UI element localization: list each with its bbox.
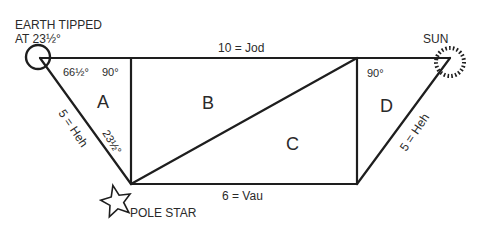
region-d-label: D [380, 96, 393, 116]
region-a-label: A [97, 92, 109, 112]
region-c-label: C [286, 134, 299, 154]
angle-top-left-label: 90° [102, 66, 119, 78]
right-slant-label: 5 = Heh [397, 111, 432, 154]
pole-star-icon [98, 182, 134, 218]
earth-label-line2: AT 23½° [15, 32, 61, 46]
earth-label-line1: EARTH TIPPED [15, 18, 102, 32]
bottom-edge-label: 6 = Vau [222, 189, 263, 203]
region-b-label: B [202, 93, 214, 113]
angle-top-right-label: 90° [367, 67, 384, 79]
angle-earth-label: 66½° [63, 66, 89, 78]
top-edge-label: 10 = Jod [218, 41, 264, 55]
angle-pole-label: 23½° [100, 128, 124, 156]
diagonal-line [131, 58, 357, 184]
left-slant-label: 5 = Heh [56, 107, 91, 150]
tetragrammaton-diagram: EARTH TIPPED AT 23½° SUN POLE STAR 10 = … [0, 0, 484, 231]
pole-star-label: POLE STAR [130, 206, 197, 220]
sun-label: SUN [423, 32, 448, 46]
